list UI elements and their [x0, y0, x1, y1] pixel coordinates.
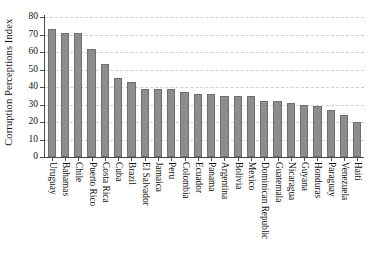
x-axis-tick-label-text: Colombia: [180, 162, 189, 199]
bar: [247, 96, 255, 157]
x-axis-tick-label: Bolivia: [231, 162, 244, 266]
bar: [340, 115, 348, 157]
x-axis-tick-label-text: El Salvador: [140, 162, 149, 206]
x-axis-tick: [78, 157, 79, 161]
x-axis-tick-label: Jamaica: [151, 162, 164, 266]
bar: [287, 103, 295, 157]
gridline: [45, 35, 364, 36]
x-axis-tick: [344, 157, 345, 161]
y-axis-tick: [40, 122, 44, 123]
x-axis-tick-label-text: Cuba: [113, 162, 122, 182]
x-axis-tick: [92, 157, 93, 161]
x-axis-tick-label: Peru: [165, 162, 178, 266]
bar: [313, 106, 321, 157]
x-axis-tick-label-text: Dominican Republic: [260, 162, 269, 239]
bar: [154, 89, 162, 157]
x-axis-tick-label-text: Guatemala: [273, 162, 282, 202]
x-axis-tick-label: El Salvador: [138, 162, 151, 266]
x-axis-tick-label: Ecuador: [191, 162, 204, 266]
y-axis-tick: [40, 17, 44, 18]
y-axis-tick-label: 60: [16, 47, 38, 57]
bar: [260, 101, 268, 157]
x-axis-tick: [291, 157, 292, 161]
x-axis-tick-label-text: Argentina: [220, 162, 229, 199]
x-axis-tick-label-text: Chile: [74, 162, 83, 182]
bar: [273, 101, 281, 157]
x-axis-tick-label: Brazil: [125, 162, 138, 266]
x-axis-tick: [65, 157, 66, 161]
y-axis-tick-label: 10: [16, 135, 38, 145]
y-axis-tick-label: 0: [16, 152, 38, 162]
x-axis-tick: [264, 157, 265, 161]
x-axis-tick-labels: UruguayBahamasChilePuerto RicoCosta Rica…: [45, 162, 364, 267]
x-axis-tick-label: Costa Rica: [98, 162, 111, 266]
bar: [234, 96, 242, 157]
x-axis-tick-label-text: Jamaica: [153, 162, 162, 192]
gridline: [45, 17, 364, 18]
x-axis-tick-label: Panama: [205, 162, 218, 266]
x-axis-tick-label-text: Bolivia: [233, 162, 242, 189]
x-axis-tick: [224, 157, 225, 161]
x-axis-tick-label-text: Nicaragua: [286, 162, 295, 200]
x-axis-tick-label: Uruguay: [45, 162, 58, 266]
x-axis-tick: [131, 157, 132, 161]
x-axis-tick-label-text: Costa Rica: [100, 162, 109, 203]
x-axis-tick-label: Colombia: [178, 162, 191, 266]
bar: [127, 82, 135, 157]
x-axis-tick-label-text: Paraguay: [326, 162, 335, 197]
bar: [101, 64, 109, 157]
y-axis-tick: [40, 157, 44, 158]
x-axis-tick-label-text: Panama: [206, 162, 215, 191]
x-axis-tick-label-text: Peru: [167, 162, 176, 179]
x-axis-tick-label-text: Brazil: [127, 162, 136, 185]
x-axis-tick-label: Haiti: [351, 162, 364, 266]
bar: [114, 78, 122, 157]
x-axis-tick: [331, 157, 332, 161]
x-axis-tick-label: Argentina: [218, 162, 231, 266]
x-axis-tick: [118, 157, 119, 161]
x-axis-tick-label: Bahamas: [58, 162, 71, 266]
bar: [141, 89, 149, 157]
x-axis-tick-label-text: Haiti: [353, 162, 362, 181]
y-axis-tick: [40, 52, 44, 53]
bar: [220, 96, 228, 157]
x-axis-tick: [52, 157, 53, 161]
y-axis-tick-label: 80: [16, 12, 38, 22]
x-axis-tick-label-text: Guyana: [300, 162, 309, 191]
y-axis-tick: [40, 35, 44, 36]
y-axis-tick-label: 50: [16, 65, 38, 75]
x-axis-tick: [185, 157, 186, 161]
x-axis-tick-label: Mexico: [244, 162, 257, 266]
x-axis-tick-label: Guatemala: [271, 162, 284, 266]
bar: [353, 122, 361, 157]
bar: [194, 94, 202, 157]
x-axis-tick-label-text: Bahamas: [60, 162, 69, 196]
plot-area: [45, 17, 364, 157]
x-axis-tick-label: Chile: [72, 162, 85, 266]
y-axis-tick: [40, 70, 44, 71]
x-axis-tick-label: Paraguay: [324, 162, 337, 266]
bar: [180, 92, 188, 157]
y-axis-tick: [40, 140, 44, 141]
bar: [300, 105, 308, 158]
y-axis-tick: [40, 105, 44, 106]
x-axis-tick: [278, 157, 279, 161]
x-axis-tick: [105, 157, 106, 161]
x-axis-tick-label-text: Venezuela: [339, 162, 348, 200]
bar: [207, 94, 215, 157]
x-axis-tick: [198, 157, 199, 161]
x-axis-tick: [171, 157, 172, 161]
x-axis-tick-label: Guyana: [298, 162, 311, 266]
x-axis-tick-label: Honduras: [311, 162, 324, 266]
bar: [167, 89, 175, 157]
x-axis-tick-label: Cuba: [111, 162, 124, 266]
x-axis-tick: [211, 157, 212, 161]
y-axis-tick-label: 20: [16, 117, 38, 127]
x-axis-tick-label: Nicaragua: [284, 162, 297, 266]
x-axis-tick-label-text: Uruguay: [47, 162, 56, 195]
y-axis-tick-label: 70: [16, 30, 38, 40]
x-axis-tick-label: Puerto Rico: [85, 162, 98, 266]
x-axis-tick: [238, 157, 239, 161]
x-axis-tick-label-text: Ecuador: [193, 162, 202, 193]
x-axis-tick-label-text: Honduras: [313, 162, 322, 198]
